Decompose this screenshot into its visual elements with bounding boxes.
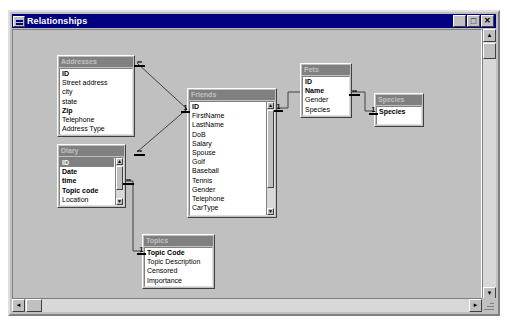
field-list-scrollbar-diary[interactable]: ▲ ▼ [115,158,123,205]
field-row[interactable]: Address Type [60,124,132,133]
table-box-pets[interactable]: Pets ID Name Gender Species [300,63,352,118]
field-row[interactable]: Species [377,107,421,116]
field-row[interactable]: Tennis [190,176,265,185]
minimize-icon: _ [454,21,465,25]
scroll-left-icon: ◄ [16,302,22,308]
field-list-scrollbar-friends[interactable]: ▲ ▼ [266,102,274,215]
cardinality-bar [274,110,283,112]
scroll-down-icon[interactable]: ▼ [267,208,274,215]
field-row[interactable]: Topic Code [145,248,212,257]
field-row[interactable]: Censored [145,266,212,275]
table-box-topics[interactable]: Topics Topic Code Topic Description Cens… [142,234,215,289]
horizontal-scrollbar[interactable]: ◄ ► [12,298,482,312]
window-controls: _ □ ✕ [453,15,495,27]
field-row[interactable]: Topic Description [145,257,212,266]
field-list-species[interactable]: Species [376,106,422,125]
field-row[interactable]: Telephone [60,115,132,124]
field-row[interactable]: FirstName [190,111,265,120]
cardinality-symbol: ∞ [134,58,145,65]
field-row[interactable]: city [60,87,132,96]
field-list-topics[interactable]: Topic Code Topic Description Censored Im… [144,247,213,287]
cardinality-bar [123,183,134,185]
table-title-species: Species [376,95,422,105]
cardinality-bar [349,94,360,96]
scroll-left-button[interactable]: ◄ [12,299,25,312]
field-row[interactable]: state [60,97,132,106]
field-list-addresses[interactable]: ID Street address city state Zip Telepho… [59,68,133,135]
cardinality-symbol: 1 [369,106,378,113]
field-row[interactable]: Baseball [190,166,265,175]
scroll-up-icon: ▲ [487,32,493,38]
cardinality-symbol: 1 [181,104,190,111]
cardinality-symbol: 1 [274,103,283,110]
scroll-up-icon[interactable]: ▲ [267,102,274,109]
table-box-friends[interactable]: Friends ID FirstName LastName DoB Salary… [187,88,277,218]
field-row[interactable]: Spouse [190,148,265,157]
scroll-up-button[interactable]: ▲ [483,29,496,42]
cardinality-marker: ∞ [349,87,360,96]
cardinality-marker: 1 [137,246,146,255]
horizontal-scrollbar-thumb[interactable] [26,299,42,312]
scroll-right-icon: ► [473,302,479,308]
relationship-diagram-canvas[interactable]: Addresses ID Street address city state Z… [12,29,482,300]
cardinality-bar [369,113,378,115]
scrollbar-thumb[interactable] [116,166,123,190]
vertical-scrollbar-thumb[interactable] [483,43,496,59]
field-row[interactable]: DoB [190,130,265,139]
field-row[interactable]: Gender [190,185,265,194]
field-row[interactable]: Salary [190,139,265,148]
table-title-friends: Friends [189,90,275,100]
field-row[interactable]: Street address [60,78,132,87]
field-list-friends[interactable]: ID FirstName LastName DoB Salary Spouse … [189,101,275,216]
field-row[interactable]: Golf [190,157,265,166]
field-row[interactable]: Name [303,86,349,95]
window-title-bar[interactable]: Relationships _ □ ✕ [12,14,496,28]
cardinality-symbol: ∞ [349,87,360,94]
scroll-down-icon: ▼ [487,290,493,296]
close-button[interactable]: ✕ [481,15,494,27]
scroll-down-icon[interactable]: ▼ [116,198,123,205]
system-menu-icon[interactable] [13,16,25,27]
table-title-addresses: Addresses [59,57,133,67]
relationships-window: Relationships _ □ ✕ Addresses ID [8,10,500,316]
scroll-right-button[interactable]: ► [469,299,482,312]
scrollbar-thumb[interactable] [267,110,274,188]
cardinality-symbol: ∞ [123,176,134,183]
field-row[interactable]: Location [60,195,114,204]
table-title-diary: Diary [59,146,124,156]
cardinality-bar [181,111,190,113]
field-list-diary[interactable]: ID Date time Topic code Location ▲ ▼ [59,157,124,206]
cardinality-marker: 1 [274,103,283,112]
field-row[interactable]: ID [60,69,132,78]
maximize-button[interactable]: □ [467,15,480,27]
field-row[interactable]: time [60,176,114,185]
maximize-icon: □ [468,16,479,26]
field-row[interactable]: Telephone [190,194,265,203]
scroll-up-icon[interactable]: ▲ [116,158,123,165]
field-row[interactable]: Species [303,105,349,114]
field-row[interactable]: Gender [303,95,349,104]
cardinality-marker: ∞ [134,147,145,156]
table-box-species[interactable]: Species Species [374,93,424,127]
table-box-addresses[interactable]: Addresses ID Street address city state Z… [57,55,135,137]
field-row[interactable]: Date [60,167,114,176]
table-title-pets: Pets [302,65,350,75]
window-title: Relationships [27,14,87,28]
field-list-pets[interactable]: ID Name Gender Species [302,76,350,116]
table-box-diary[interactable]: Diary ID Date time Topic code Location ▲… [57,144,126,208]
close-icon: ✕ [482,16,493,26]
minimize-button[interactable]: _ [453,15,466,27]
field-row[interactable]: ID [60,158,114,167]
field-row[interactable]: CarType [190,203,265,212]
resize-grip[interactable] [482,298,496,312]
cardinality-symbol: 1 [137,246,146,253]
field-row[interactable]: Importance [145,276,212,285]
field-row[interactable]: LastName [190,120,265,129]
cardinality-marker: 1 [369,106,378,115]
field-row[interactable]: ID [303,77,349,86]
vertical-scrollbar[interactable]: ▲ ▼ [482,29,496,300]
cardinality-marker: ∞ [123,176,134,185]
field-row[interactable]: Zip [60,106,132,115]
field-row[interactable]: ID [190,102,265,111]
field-row[interactable]: Topic code [60,186,114,195]
